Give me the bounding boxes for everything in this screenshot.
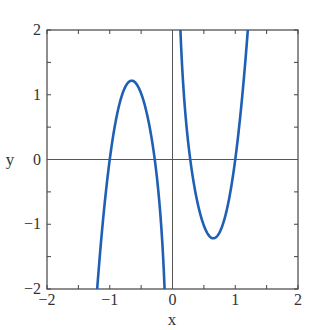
x-tick-label: −1 (101, 291, 118, 308)
y-tick-label: 2 (33, 21, 41, 38)
x-axis-label: x (168, 310, 177, 329)
function-curve-right-branch (174, 0, 251, 238)
y-tick-label: 1 (33, 86, 41, 103)
x-tick-label: −2 (38, 291, 55, 308)
chart: −2−1012 −2−1012 x y (0, 0, 321, 330)
function-curve-left-branch (94, 81, 171, 322)
x-tick-label: 1 (231, 291, 239, 308)
y-tick-label: −2 (24, 280, 41, 297)
y-tick-labels: −2−1012 (24, 21, 41, 297)
x-tick-label: 2 (294, 291, 302, 308)
y-tick-label: −1 (24, 215, 41, 232)
x-tick-label: 0 (169, 291, 177, 308)
y-axis-label: y (6, 150, 15, 169)
y-tick-label: 0 (33, 151, 41, 168)
x-tick-labels: −2−1012 (38, 291, 302, 308)
